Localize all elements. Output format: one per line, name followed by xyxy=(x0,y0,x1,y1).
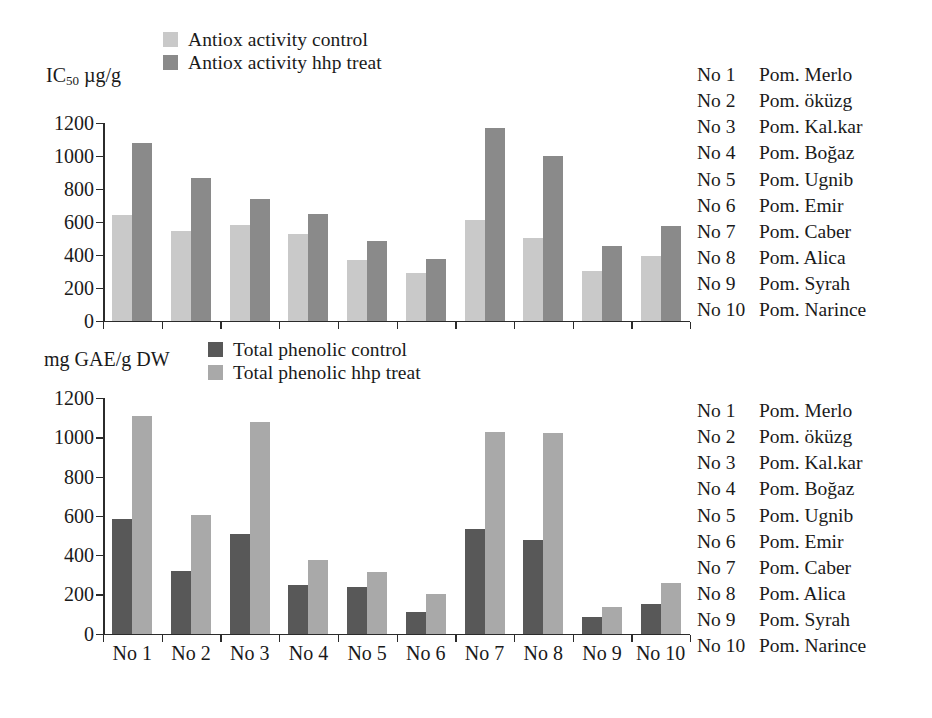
cultivar-code-number: No 8 xyxy=(697,581,759,607)
cultivar-code-number: No 7 xyxy=(697,219,759,245)
bar xyxy=(308,560,328,634)
cultivar-code-name: Pom. öküzg xyxy=(759,88,866,114)
cultivar-code-name: Pom. Kal.kar xyxy=(759,114,866,140)
x-axis-tick xyxy=(279,635,280,642)
y-axis-tick-label: 600 xyxy=(64,210,94,233)
bar xyxy=(641,256,661,321)
y-axis-tick-label: 400 xyxy=(64,544,94,567)
cultivar-code-number: No 1 xyxy=(697,62,759,88)
cultivar-code-name: Pom. Syrah xyxy=(759,271,866,297)
y-axis-tick-label: 1000 xyxy=(54,426,94,449)
y-axis-tick xyxy=(96,437,103,438)
bar xyxy=(426,594,446,634)
bar xyxy=(523,238,543,320)
x-axis-tick-label: No 8 xyxy=(524,642,563,665)
x-axis-tick xyxy=(455,635,456,642)
cultivar-code-name: Pom. Narince xyxy=(759,297,866,323)
cultivar-code-row: No 2Pom. öküzg xyxy=(697,424,866,450)
bar xyxy=(250,422,270,634)
cultivar-code-number: No 8 xyxy=(697,245,759,271)
cultivar-code-name: Pom. Alica xyxy=(759,245,866,271)
cultivar-code-name: Pom. Kal.kar xyxy=(759,450,866,476)
y-axis-tick-label: 1200 xyxy=(54,112,94,135)
cultivar-code-number: No 3 xyxy=(697,114,759,140)
y-axis-tick xyxy=(96,222,103,223)
y-axis-tick xyxy=(96,594,103,595)
bar xyxy=(465,220,485,320)
y-axis-tick-label: 800 xyxy=(64,465,94,488)
bar xyxy=(485,432,505,633)
cultivar-code-row: No 4Pom. Boğaz xyxy=(697,476,866,502)
y-axis-tick xyxy=(96,555,103,556)
x-axis-tick xyxy=(690,635,691,642)
x-axis-tick xyxy=(338,635,339,642)
cultivar-code-row: No 9Pom. Syrah xyxy=(697,271,866,297)
cultivar-code-number: No 10 xyxy=(697,297,759,323)
x-axis-tick xyxy=(220,635,221,642)
cultivar-code-row: No 6Pom. Emir xyxy=(697,193,866,219)
x-axis-tick-label: No 10 xyxy=(636,642,685,665)
legend-entry-label: Antiox activity control xyxy=(188,30,368,50)
cultivar-code-number: No 6 xyxy=(697,193,759,219)
bar xyxy=(661,226,681,321)
cultivar-code-number: No 2 xyxy=(697,88,759,114)
cultivar-code-number: No 9 xyxy=(697,271,759,297)
cultivar-code-name: Pom. Caber xyxy=(759,219,866,245)
bar xyxy=(602,607,622,633)
bar xyxy=(367,241,387,321)
cultivar-code-number: No 7 xyxy=(697,555,759,581)
bar xyxy=(191,515,211,633)
figure-root: Antiox activity controlAntiox activity h… xyxy=(0,0,932,718)
x-axis-tick-label: No 5 xyxy=(347,642,386,665)
bar xyxy=(112,215,132,320)
y-axis-tick-label: 400 xyxy=(64,243,94,266)
x-axis-tick xyxy=(220,322,221,329)
legend-entry: Total phenolic control xyxy=(208,340,421,360)
bottom-chart-y-axis-line xyxy=(103,398,105,635)
cultivar-code-number: No 4 xyxy=(697,140,759,166)
y-axis-tick-label: 200 xyxy=(64,583,94,606)
bar xyxy=(543,433,563,634)
y-axis-tick-label: 600 xyxy=(64,504,94,527)
cultivar-code-row: No 10Pom. Narince xyxy=(697,633,866,659)
bar xyxy=(347,587,367,633)
y-axis-tick xyxy=(96,255,103,256)
x-axis-tick xyxy=(103,635,104,642)
y-axis-tick xyxy=(96,321,103,322)
x-axis-tick xyxy=(690,322,691,329)
bar xyxy=(112,519,132,634)
cultivar-code-row: No 9Pom. Syrah xyxy=(697,607,866,633)
top-chart-series-legend: Antiox activity controlAntiox activity h… xyxy=(163,30,382,72)
cultivar-code-name: Pom. Caber xyxy=(759,555,866,581)
top-chart-plot-area: 020040060080010001200 xyxy=(103,123,690,322)
cultivar-code-row: No 1Pom. Merlo xyxy=(697,62,866,88)
bar xyxy=(543,156,563,321)
cultivar-code-row: No 5Pom. Ugnib xyxy=(697,503,866,529)
bar xyxy=(171,571,191,633)
x-axis-tick xyxy=(514,635,515,642)
bar xyxy=(602,246,622,321)
y-axis-tick xyxy=(96,398,103,399)
cultivar-code-number: No 4 xyxy=(697,476,759,502)
legend-swatch-icon xyxy=(163,32,178,47)
top-chart-y-axis-line xyxy=(103,123,105,322)
cultivar-code-row: No 8Pom. Alica xyxy=(697,581,866,607)
cultivar-code-number: No 1 xyxy=(697,398,759,424)
cultivar-code-number: No 5 xyxy=(697,167,759,193)
x-axis-tick xyxy=(514,322,515,329)
cultivar-code-name: Pom. Ugnib xyxy=(759,503,866,529)
cultivar-code-name: Pom. Alica xyxy=(759,581,866,607)
legend-swatch-icon xyxy=(208,342,223,357)
bar xyxy=(523,540,543,633)
y-axis-title-sub: 50 xyxy=(66,73,79,88)
bar xyxy=(426,259,446,321)
cultivar-code-number: No 6 xyxy=(697,529,759,555)
cultivar-code-row: No 2Pom. öküzg xyxy=(697,88,866,114)
cultivar-code-row: No 10Pom. Narince xyxy=(697,297,866,323)
bar xyxy=(308,214,328,320)
y-axis-tick xyxy=(96,156,103,157)
x-axis-tick xyxy=(455,322,456,329)
cultivar-code-name: Pom. Merlo xyxy=(759,398,866,424)
bar xyxy=(406,273,426,321)
bar xyxy=(230,225,250,320)
